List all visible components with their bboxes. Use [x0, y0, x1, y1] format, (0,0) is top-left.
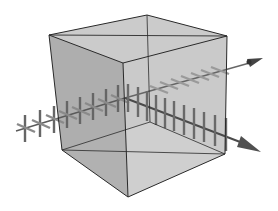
- diagram-canvas: [0, 0, 278, 211]
- transmitted-arrowhead-icon: [237, 136, 261, 152]
- beam-splitter-diagram: [0, 0, 278, 211]
